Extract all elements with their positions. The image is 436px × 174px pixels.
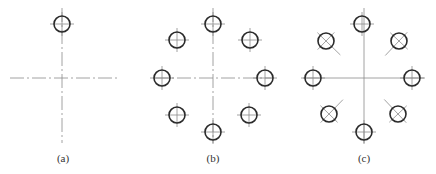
bolt-hole: [352, 120, 376, 144]
bolt-hole: [238, 28, 262, 52]
bolt-hole: [201, 12, 225, 36]
bolt-hole: [400, 66, 424, 90]
bolt-hole: [384, 99, 406, 122]
panel-label-a: (a): [57, 152, 69, 164]
bolt-hole: [301, 66, 325, 90]
bolt-hole: [165, 28, 189, 52]
radial-centerline: [384, 99, 406, 122]
panel-label-b: (b): [207, 152, 220, 164]
bolt-hole: [201, 120, 225, 144]
panel-a: [10, 8, 117, 143]
radial-centerline: [321, 100, 343, 123]
bolt-hole: [350, 12, 374, 36]
bolt-hole: [253, 66, 277, 90]
bolt-circle-diagram: [0, 0, 436, 174]
panel-b: [150, 8, 277, 144]
bolt-hole: [150, 66, 174, 90]
bolt-hole: [317, 32, 340, 55]
panel-label-c: (c): [358, 152, 370, 164]
panel-c: [301, 8, 425, 144]
bolt-hole: [165, 103, 189, 127]
bolt-hole: [385, 32, 407, 55]
bolt-hole: [50, 12, 74, 36]
bolt-hole: [320, 100, 343, 123]
bolt-hole: [237, 103, 261, 127]
